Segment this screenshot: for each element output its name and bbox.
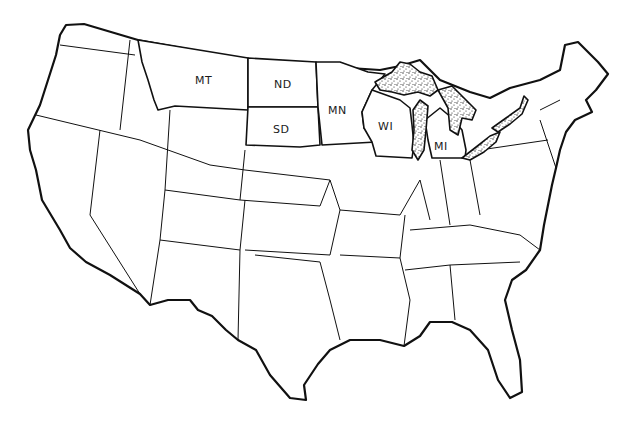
label-wi: WI — [378, 120, 393, 133]
label-sd: SD — [273, 123, 289, 136]
lake-erie — [462, 132, 500, 160]
lake-michigan — [412, 100, 428, 160]
label-mt: MT — [195, 74, 212, 87]
label-mi: MI — [434, 140, 448, 153]
lake-ontario — [492, 96, 528, 132]
state-mt[interactable] — [138, 40, 248, 110]
label-nd: ND — [274, 78, 292, 91]
map-canvas: MT ND SD MN WI MI — [0, 0, 632, 424]
us-map: MT ND SD MN WI MI — [0, 0, 632, 424]
label-mn: MN — [328, 104, 347, 117]
